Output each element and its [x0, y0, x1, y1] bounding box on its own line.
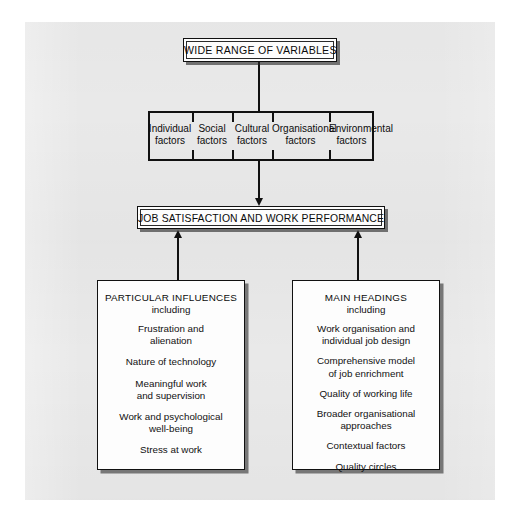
- factor-organisational: Organisational factors: [272, 123, 329, 149]
- bracket-divider-tick: [192, 111, 194, 122]
- factor-line-1: Social: [192, 123, 232, 135]
- list-item: Work and psychologicalwell-being: [102, 411, 240, 435]
- main-headings-list: Work organisation andindividual job desi…: [297, 323, 435, 481]
- particular-influences-subheading: including: [98, 304, 244, 315]
- bracket-divider-tick: [232, 111, 234, 122]
- factors-bracket: Individual factors Social factors Cultur…: [148, 111, 374, 161]
- main-headings-subheading: including: [293, 304, 439, 315]
- list-item: Quality of working life: [297, 388, 435, 400]
- list-item: Quality circles: [297, 461, 435, 473]
- factor-line-2: factors: [148, 135, 192, 147]
- factor-social: Social factors: [192, 123, 232, 149]
- arrow-up-from-left-panel: [174, 230, 182, 238]
- bracket-divider-tick: [272, 150, 274, 161]
- particular-influences-heading: PARTICULAR INFLUENCES: [98, 292, 244, 303]
- factor-line-1: Cultural: [232, 123, 272, 135]
- list-item: Contextual factors: [297, 440, 435, 452]
- connector-bracket-to-middle: [258, 161, 260, 200]
- diagram-canvas: WIDE RANGE OF VARIABLES Individual facto…: [0, 0, 522, 523]
- wide-range-of-variables-label: WIDE RANGE OF VARIABLES: [184, 44, 336, 57]
- wide-range-of-variables-box: WIDE RANGE OF VARIABLES: [183, 38, 337, 62]
- main-headings-heading: MAIN HEADINGS: [293, 292, 439, 303]
- arrow-up-from-right-panel: [354, 230, 362, 238]
- arrow-down-to-middle-box: [255, 198, 263, 206]
- list-item: Frustration andalienation: [102, 323, 240, 347]
- list-item: Nature of technology: [102, 356, 240, 368]
- bracket-divider-tick: [329, 111, 331, 122]
- bracket-divider-tick: [192, 150, 194, 161]
- factor-line-1: Individual: [148, 123, 192, 135]
- list-item: Meaningful workand supervision: [102, 378, 240, 402]
- bracket-divider-tick: [272, 111, 274, 122]
- bracket-divider-tick: [329, 150, 331, 161]
- list-item: Work organisation andindividual job desi…: [297, 323, 435, 347]
- bracket-bottom-line: [148, 159, 374, 161]
- connector-left-panel-to-middle: [177, 238, 179, 280]
- factor-individual: Individual factors: [148, 123, 192, 149]
- connector-title-to-bracket: [258, 62, 260, 111]
- bracket-top-line: [148, 111, 374, 113]
- factor-line-2: factors: [192, 135, 232, 147]
- factor-cultural: Cultural factors: [232, 123, 272, 149]
- list-item: Broader organisationalapproaches: [297, 408, 435, 432]
- factor-line-1: Organisational: [272, 123, 329, 135]
- factor-line-1: Environmental: [329, 123, 374, 135]
- particular-influences-list: Frustration andalienation Nature of tech…: [102, 323, 240, 466]
- bracket-divider-tick: [232, 150, 234, 161]
- factor-line-2: factors: [272, 135, 329, 147]
- main-headings-panel: MAIN HEADINGS including Work organisatio…: [292, 280, 440, 470]
- particular-influences-panel: PARTICULAR INFLUENCES including Frustrat…: [97, 280, 245, 470]
- factor-environmental: Environmental factors: [329, 123, 374, 149]
- connector-right-panel-to-middle: [357, 238, 359, 280]
- job-satisfaction-and-work-performance-box: JOB SATISFACTION AND WORK PERFORMANCE: [137, 206, 385, 229]
- factor-line-2: factors: [232, 135, 272, 147]
- job-satisfaction-and-work-performance-label: JOB SATISFACTION AND WORK PERFORMANCE: [138, 212, 384, 225]
- list-item: Comprehensive modelof job enrichment: [297, 355, 435, 379]
- list-item: Stress at work: [102, 444, 240, 456]
- factor-line-2: factors: [329, 135, 374, 147]
